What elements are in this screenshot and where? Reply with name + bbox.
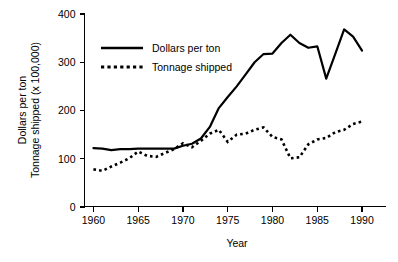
y-tick-label-0: 0 xyxy=(70,201,76,213)
x-tick-label-1960: 1960 xyxy=(82,214,106,226)
y-tick-label-300: 300 xyxy=(58,56,76,68)
legend-label-tonnage-shipped: Tonnage shipped xyxy=(152,61,232,73)
series-tonnage-shipped-line xyxy=(93,122,362,171)
x-axis: 1960196519701975198019851990 xyxy=(82,207,386,227)
y-tick-label-400: 400 xyxy=(58,8,76,20)
x-tick-label-1980: 1980 xyxy=(261,214,285,226)
y-axis-title-line1: Dollars per ton xyxy=(16,76,28,144)
chart-container: 0100200300400 19601965197019751980198519… xyxy=(0,0,398,262)
y-axis: 0100200300400 xyxy=(58,8,85,213)
y-tick-label-200: 200 xyxy=(58,104,76,116)
line-chart: 0100200300400 19601965197019751980198519… xyxy=(0,0,398,262)
x-tick-label-1970: 1970 xyxy=(171,214,195,226)
legend-label-dollars-per-ton: Dollars per ton xyxy=(152,42,220,54)
x-axis-tick-labels: 1960196519701975198019851990 xyxy=(82,214,374,226)
y-axis-tick-labels: 0100200300400 xyxy=(58,8,76,213)
y-axis-ticks xyxy=(80,14,85,207)
x-tick-label-1975: 1975 xyxy=(216,214,240,226)
legend: Dollars per ton Tonnage shipped xyxy=(101,42,232,73)
x-tick-label-1985: 1985 xyxy=(306,214,330,226)
y-tick-label-100: 100 xyxy=(58,153,76,165)
plot-area xyxy=(93,29,362,170)
x-tick-label-1965: 1965 xyxy=(127,214,151,226)
x-tick-label-1990: 1990 xyxy=(350,214,374,226)
x-axis-ticks xyxy=(93,207,362,212)
y-axis-title-line2: Tonnage shipped (x 100,000) xyxy=(29,42,41,178)
x-axis-title: Year xyxy=(226,237,248,249)
